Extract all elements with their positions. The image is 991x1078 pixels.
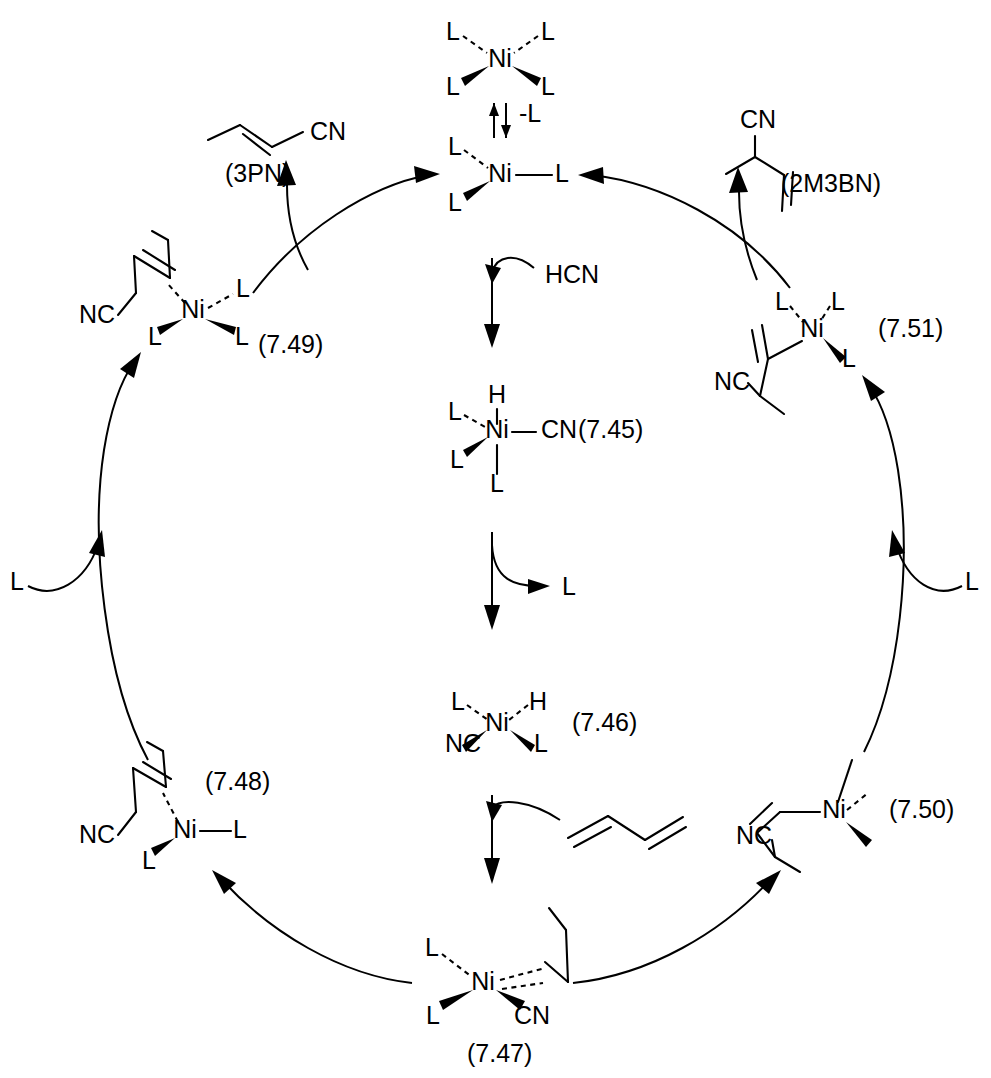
species-7-48: NC Ni L L xyxy=(79,742,247,874)
c746-hydride: H xyxy=(529,687,547,715)
c746-wedge-l xyxy=(510,730,535,752)
released-ligand-label: L xyxy=(562,572,576,600)
label-7-48: (7.48) xyxy=(205,767,270,795)
label-7-47: (7.47) xyxy=(467,1039,532,1067)
c748-chain-f xyxy=(147,742,163,751)
nil4-bond-ul xyxy=(463,36,487,53)
c749-nitrile: NC xyxy=(79,300,115,328)
nil4-ligand-upper-left: L xyxy=(446,17,460,45)
product-release-arrow-2m3bn xyxy=(729,167,757,280)
c747-bond-allyl-upper xyxy=(500,968,545,980)
c750-metal: Ni xyxy=(822,795,846,823)
incoming-ligand-left-arrow xyxy=(28,530,105,591)
nil3-ligand-upper-left: L xyxy=(448,132,462,160)
species-nil3: L Ni L L xyxy=(448,132,569,216)
cycle-arrow-747-to-748 xyxy=(212,870,412,983)
ligand-dissociation-arrow xyxy=(484,532,550,630)
c751-ligand-upper-right: L xyxy=(831,287,845,315)
c746-isocyanide: NC xyxy=(445,729,481,757)
c747-ligand-lower-left: L xyxy=(426,1001,440,1029)
cycle-arrow-748-to-749 xyxy=(99,352,148,760)
nil4-wedge-lr xyxy=(512,66,541,86)
c747-wedge-cn xyxy=(496,990,525,1010)
c746-ligand-upper-left: L xyxy=(451,687,465,715)
c747-bond-ul xyxy=(442,954,472,977)
catalytic-cycle-diagram: L L Ni L L -L L Ni L L HCN H L Ni xyxy=(0,0,991,1078)
c746-bond-h xyxy=(509,705,528,720)
c748-bond-alkene xyxy=(163,793,178,822)
c749-chain-b xyxy=(134,256,136,293)
cycle-arrow-751-to-nil3 xyxy=(578,167,790,288)
label-7-51: (7.51) xyxy=(878,314,943,342)
c749-chain-a xyxy=(118,293,136,315)
nil3-wedge-ll xyxy=(463,181,490,201)
c751-chain-methyl xyxy=(760,396,784,414)
species-7-46: L H Ni NC L xyxy=(445,687,548,757)
c750-bond-ur xyxy=(847,793,868,810)
label-7-50: (7.50) xyxy=(889,795,954,823)
butadiene-insertion-arrow xyxy=(484,795,560,884)
c746-ligand-lower-right: L xyxy=(534,729,548,757)
hcn-label: HCN xyxy=(545,260,599,288)
c747-metal: Ni xyxy=(471,967,495,995)
c748-ligand-right: L xyxy=(233,815,247,843)
c745-ligand-lower-left: L xyxy=(450,445,464,473)
species-7-49: NC Ni L L L xyxy=(79,231,250,350)
c751-metal: Ni xyxy=(800,314,824,342)
species-7-51: NC L L Ni L xyxy=(714,287,856,414)
incoming-ligand-right-arrow xyxy=(889,530,962,591)
c751-chain-a xyxy=(760,359,768,396)
c747-wedge-ll xyxy=(439,990,473,1010)
cycle-arrow-750-to-751 xyxy=(862,375,904,752)
c747-ligand-upper-left: L xyxy=(425,933,439,961)
nil4-ligand-lower-left: L xyxy=(446,72,460,100)
c747-allyl-c3 xyxy=(549,908,566,930)
c748-chain-e xyxy=(163,751,166,787)
label-7-46: (7.46) xyxy=(572,708,637,736)
c745-bond-ul xyxy=(464,415,485,427)
product-2m3bn-nitrile: CN xyxy=(740,105,776,133)
label-2m3bn: (2M3BN) xyxy=(781,169,881,197)
hcn-addition-arrow xyxy=(484,258,534,348)
nil3-ligand-right: L xyxy=(555,159,569,187)
c748-chain-b xyxy=(133,768,136,812)
nil4-wedge-ll xyxy=(461,66,489,86)
species-7-50: NC Ni xyxy=(736,760,872,872)
nil4-ligand-upper-right: L xyxy=(541,17,555,45)
nil4-ligand-lower-right: L xyxy=(541,72,555,100)
c747-bond-allyl-lower xyxy=(502,983,543,989)
c749-ligand-lower-right: L xyxy=(235,322,249,350)
c751-nitrile: NC xyxy=(714,367,750,395)
species-7-45: H L Ni CN L L xyxy=(448,380,577,497)
label-7-45: (7.45) xyxy=(578,415,643,443)
nil3-ligand-lower-left: L xyxy=(448,188,462,216)
c749-wedge-lr xyxy=(205,319,236,335)
species-7-47: L Ni L CN xyxy=(425,908,568,1029)
c751-ligand-upper-left: L xyxy=(775,287,789,315)
c750-wedge-lr xyxy=(846,822,872,847)
nil3-metal: Ni xyxy=(488,159,512,187)
c751-bond-vinyl xyxy=(768,341,802,359)
minus-ligand-label: -L xyxy=(519,99,541,127)
c745-ligand-upper-left: L xyxy=(448,397,462,425)
c751-vinyl-a xyxy=(762,325,768,359)
c748-chain-a xyxy=(118,812,136,835)
c749-metal: Ni xyxy=(181,295,205,323)
c749-chain-c xyxy=(134,256,170,278)
incoming-ligand-left-label: L xyxy=(10,567,24,595)
c745-cyanide: CN xyxy=(541,415,577,443)
c748-chain-c xyxy=(133,768,166,787)
product-3pn: CN xyxy=(208,117,346,155)
nil3-bond-ul xyxy=(464,150,488,168)
cycle-arrow-747-to-750 xyxy=(573,870,781,983)
product-3pn-nitrile: CN xyxy=(310,117,346,145)
nil4-metal: Ni xyxy=(488,44,512,72)
incoming-ligand-right-label: L xyxy=(965,567,979,595)
c749-ligand-upper-right: L xyxy=(236,274,250,302)
c747-allyl-c1 xyxy=(545,962,568,982)
product-release-arrow-3pn xyxy=(277,160,308,270)
c748-nitrile: NC xyxy=(79,820,115,848)
c745-wedge-ll xyxy=(463,437,488,457)
c749-chain-e xyxy=(168,240,170,278)
equilibrium-arrows xyxy=(489,103,511,138)
